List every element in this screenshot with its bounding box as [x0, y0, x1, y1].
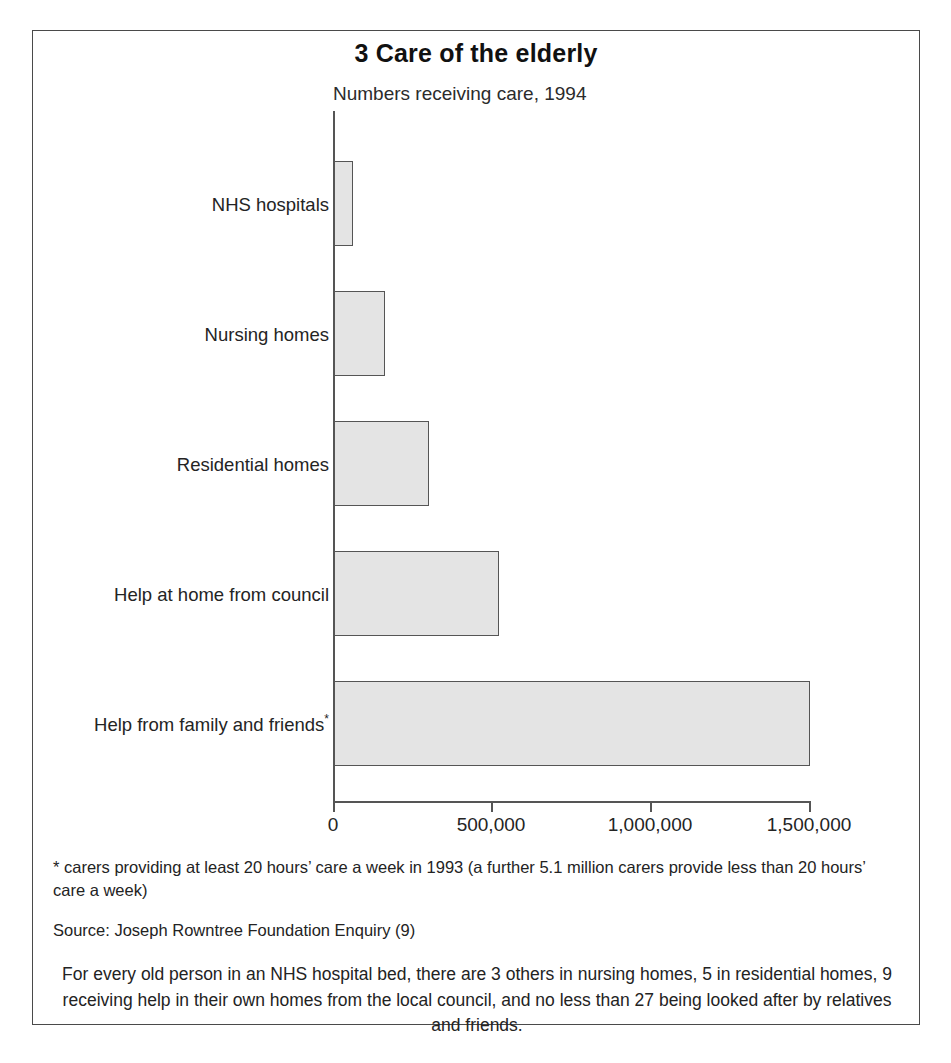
- bar-rect: [334, 681, 810, 766]
- x-axis-tick: [650, 801, 652, 812]
- x-axis-tick-label: 0: [328, 814, 339, 836]
- bar-category-label: Nursing homes: [205, 322, 329, 345]
- footnote-marker: *: [324, 712, 329, 726]
- bar-category-text: Nursing homes: [205, 323, 329, 344]
- bar-category-text: Residential homes: [177, 453, 329, 474]
- bar-row: Nursing homes: [33, 291, 921, 376]
- bar-rect: [334, 291, 385, 376]
- bar-category-label: NHS hospitals: [212, 192, 329, 215]
- bar-rect: [334, 161, 353, 246]
- source-text: Source: Joseph Rowntree Foundation Enqui…: [53, 919, 901, 942]
- bar-category-label: Help at home from council: [114, 582, 329, 605]
- bar-row: NHS hospitals: [33, 161, 921, 246]
- bar-category-text: Help at home from council: [114, 583, 329, 604]
- chart-subtitle: Numbers receiving care, 1994: [333, 83, 586, 105]
- bar-rect: [334, 421, 429, 506]
- plot-area: NHS hospitals Nursing homes Residential …: [33, 111, 921, 811]
- bar-row: Help from family and friends*: [33, 681, 921, 766]
- bar-rect: [334, 551, 499, 636]
- notes-block: * carers providing at least 20 hours’ ca…: [53, 856, 901, 1038]
- figure-frame: 3 Care of the elderly Numbers receiving …: [32, 30, 920, 1025]
- x-axis-line: [333, 801, 809, 803]
- footnote-text: * carers providing at least 20 hours’ ca…: [53, 856, 901, 903]
- bar-row: Residential homes: [33, 421, 921, 506]
- bar-row: Help at home from council: [33, 551, 921, 636]
- x-axis-tick-label: 1,500,000: [767, 814, 852, 836]
- x-axis-tick: [809, 801, 811, 812]
- bar-category-label: Help from family and friends*: [94, 712, 329, 735]
- bar-category-text: Help from family and friends: [94, 713, 324, 734]
- summary-text: For every old person in an NHS hospital …: [53, 962, 901, 1038]
- x-axis-tick: [491, 801, 493, 812]
- chart-title: 3 Care of the elderly: [33, 39, 919, 68]
- bar-category-label: Residential homes: [177, 452, 329, 475]
- bar-category-text: NHS hospitals: [212, 193, 329, 214]
- x-axis-tick-label: 1,000,000: [608, 814, 693, 836]
- x-axis-tick-label: 500,000: [457, 814, 526, 836]
- x-axis-tick: [333, 801, 335, 812]
